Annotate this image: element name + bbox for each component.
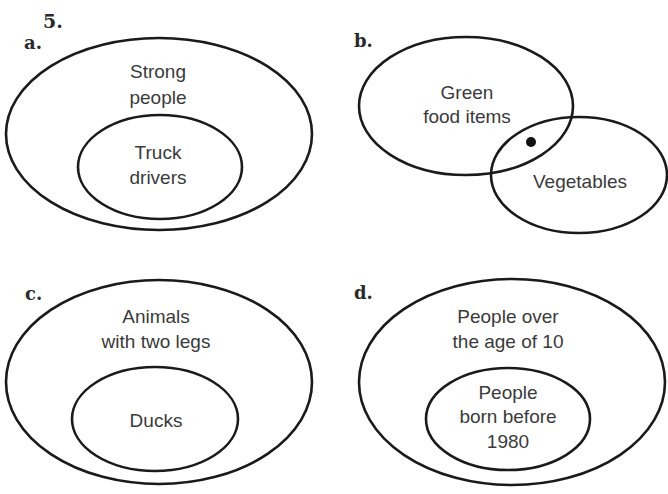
outer-set-label-line1: Animals: [122, 306, 190, 327]
inner-set-label-line2: drivers: [129, 167, 186, 188]
inner-set-label-line2: born before: [459, 406, 556, 427]
outer-set-label-line2: the age of 10: [453, 331, 564, 352]
left-set-label-line2: food items: [423, 106, 511, 127]
diagram-d: People over the age of 10 People born be…: [359, 279, 665, 485]
venn-diagrams: Strong people Truck drivers Green food i…: [0, 0, 668, 494]
diagram-b: Green food items Vegetables: [359, 37, 667, 233]
inner-set-label-line1: People: [478, 382, 537, 403]
left-set-label-line1: Green: [441, 82, 494, 103]
inner-set-label-line3: 1980: [487, 431, 529, 452]
outer-set-label-line2: with two legs: [101, 331, 211, 352]
outer-set-label-line1: Strong: [130, 61, 186, 82]
intersection-dot: [526, 137, 536, 147]
outer-set-label-line2: people: [129, 87, 186, 108]
worksheet-page: 5. a. b. c. d. Strong people Truck drive…: [0, 0, 668, 494]
inner-set-label-line1: Truck: [135, 142, 182, 163]
outer-set-label-line1: People over: [457, 306, 559, 327]
right-set-label: Vegetables: [533, 171, 627, 192]
diagram-a: Strong people Truck drivers: [6, 38, 312, 230]
diagram-c: Animals with two legs Ducks: [6, 280, 312, 484]
inner-set-label: Ducks: [130, 410, 183, 431]
